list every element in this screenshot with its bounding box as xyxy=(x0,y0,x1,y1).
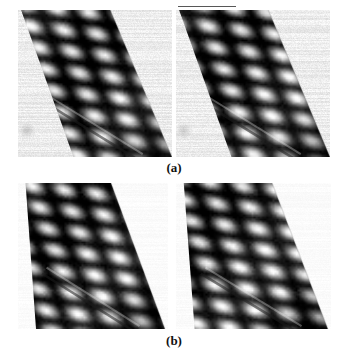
panel-b-right-image xyxy=(176,183,331,329)
top-rule-artifact xyxy=(178,6,236,7)
panel-a-left-image xyxy=(18,10,172,157)
panel-a-right-image xyxy=(176,10,330,157)
panel-a-right[interactable] xyxy=(176,10,330,157)
panel-label-b: (b) xyxy=(148,334,200,348)
panel-b-left-image xyxy=(18,183,168,329)
figure-root: (a) (b) xyxy=(0,0,347,353)
panel-a-left[interactable] xyxy=(18,10,172,157)
panel-b-right[interactable] xyxy=(176,183,331,329)
panel-label-a: (a) xyxy=(148,161,200,175)
panel-b-left[interactable] xyxy=(18,183,168,329)
